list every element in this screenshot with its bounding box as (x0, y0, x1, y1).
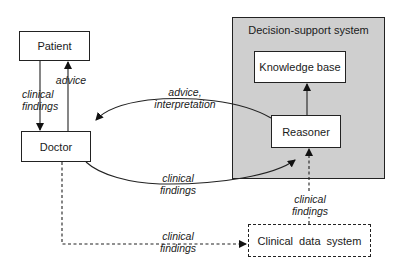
patient-node: Patient (19, 31, 90, 61)
label-reasoner-to-doctor: advice, interpretation (150, 86, 220, 110)
knowledge-base-node: Knowledge base (254, 51, 346, 83)
patient-label: Patient (37, 40, 71, 52)
doctor-node: Doctor (21, 131, 91, 162)
arrow-doctor-to-cds (62, 162, 246, 244)
label-doctor-to-patient: advice (54, 74, 88, 86)
knowledge-base-label: Knowledge base (259, 61, 340, 73)
label-cds-to-reasoner: clinical findings (290, 193, 330, 217)
reasoner-label: Reasoner (282, 126, 330, 138)
label-doctor-to-cds: clinical findings (158, 230, 198, 254)
clinical-data-system-node: Clinical data system (248, 224, 371, 257)
label-doctor-to-reasoner: clinical findings (158, 172, 198, 196)
label-patient-to-doctor: clinical findings (22, 88, 62, 112)
clinical-data-system-label: Clinical data system (258, 235, 362, 247)
reasoner-node: Reasoner (271, 115, 341, 148)
doctor-label: Doctor (40, 141, 72, 153)
diagram-canvas: Decision-support system Patient Doctor K… (0, 0, 402, 276)
